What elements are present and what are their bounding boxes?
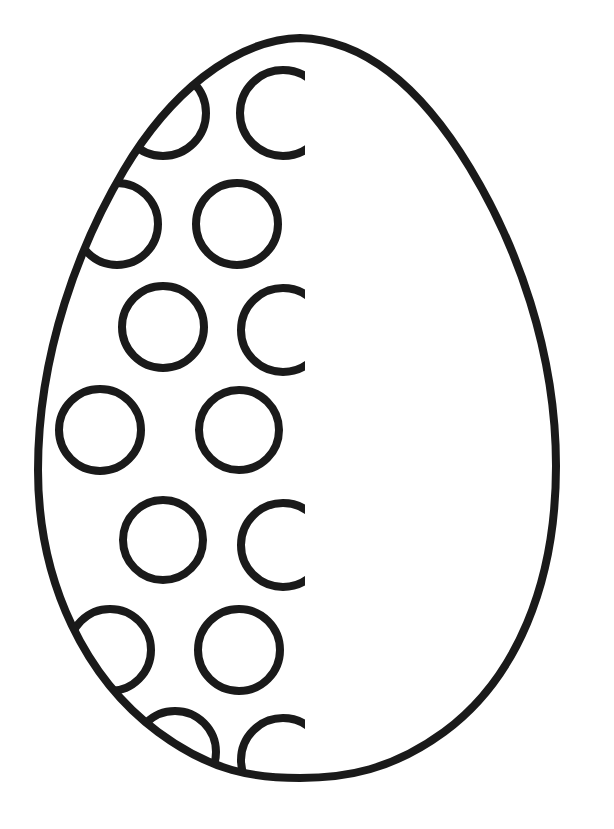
easter-egg-line-art — [0, 0, 614, 829]
coloring-page-canvas — [0, 0, 614, 829]
paper-background — [0, 0, 614, 829]
